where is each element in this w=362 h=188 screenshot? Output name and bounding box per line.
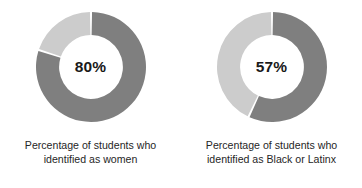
chart-caption-women: Percentage of students who identified as… <box>3 138 179 166</box>
donut-segment <box>39 12 90 57</box>
chart-caption-black-or-latinx-line2: identified as Black or Latinx <box>184 152 360 166</box>
donut-svg-women <box>30 6 152 128</box>
chart-caption-women-line2: identified as women <box>3 152 179 166</box>
donut-chart-women: 80% <box>30 6 152 136</box>
chart-caption-women-line1: Percentage of students who <box>3 138 179 152</box>
donut-svg-black-or-latinx <box>211 6 333 128</box>
donut-chart-black-or-latinx: 57% <box>211 6 333 136</box>
chart-block-black-or-latinx: 57% Percentage of students who identifie… <box>181 0 362 188</box>
chart-caption-black-or-latinx: Percentage of students who identified as… <box>184 138 360 166</box>
donut-chart-figure: 80% Percentage of students who identifie… <box>0 0 362 188</box>
chart-block-women: 80% Percentage of students who identifie… <box>0 0 181 188</box>
chart-caption-black-or-latinx-line1: Percentage of students who <box>184 138 360 152</box>
